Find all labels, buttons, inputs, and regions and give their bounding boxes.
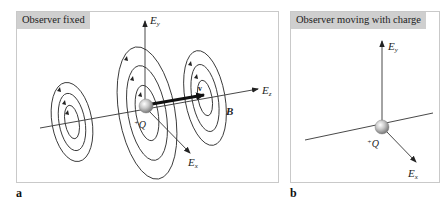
ex-axis-b <box>386 131 416 162</box>
label-ex-b: Ex <box>407 167 419 181</box>
label-charge-b: +Q <box>367 138 380 149</box>
label-magnetic-field: B <box>225 105 233 117</box>
velocity-arrow <box>152 95 204 104</box>
label-ez-a: Ez <box>261 84 272 98</box>
label-ey-a: Ey <box>149 14 161 28</box>
label-ey-b: Ey <box>387 40 399 54</box>
charge-sphere-a <box>139 99 153 113</box>
ex-axis <box>148 110 190 153</box>
label-charge-a: +Q <box>134 119 147 130</box>
charge-sphere-b <box>375 120 389 134</box>
subfigure-letter-a: a <box>16 186 22 201</box>
label-ex-a: Ex <box>187 156 199 170</box>
label-velocity: v <box>198 84 202 93</box>
subfigure-letter-b: b <box>290 186 297 201</box>
z-axis-b <box>305 113 433 140</box>
